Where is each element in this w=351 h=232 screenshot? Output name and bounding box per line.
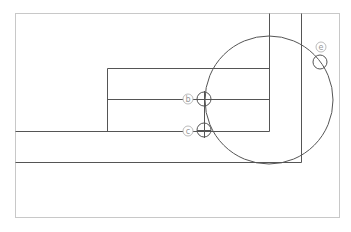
- label-c: c: [186, 127, 190, 136]
- outer-l-path: [16, 14, 302, 163]
- label-e: e: [319, 43, 324, 52]
- marker-c: c: [183, 123, 211, 137]
- outer-frame: [16, 14, 340, 218]
- inner-l-path: [16, 14, 270, 132]
- marker-b: b: [183, 92, 211, 106]
- diagram-canvas: b c e: [0, 0, 351, 232]
- label-b: b: [185, 95, 190, 104]
